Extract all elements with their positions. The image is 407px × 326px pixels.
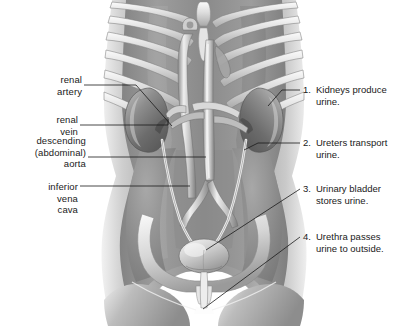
list-item-3-text: Urinary bladder stores urine. [316,183,381,206]
list-item-4-text: Urethra passes urine to outside. [316,231,384,254]
urinary-bladder [179,239,229,273]
list-item-1-number: 1. [303,84,311,96]
list-item-2-number: 2. [303,137,311,149]
list-item-2-text: Ureters transport urine. [316,137,387,160]
label-inferior-vena-cava: inferior vena cava [48,181,78,216]
label-renal-vein: renal vein [56,114,78,137]
label-descending-aorta: descending (abdominal) aorta [35,135,86,170]
label-renal-artery: renal artery [57,74,82,97]
list-item-1-text: Kidneys produce urine. [316,84,387,107]
list-item-3-number: 3. [303,183,311,195]
anatomy-figure: renal artery renal vein descending (abdo… [0,0,407,326]
urethra [200,272,208,308]
list-item-4-number: 4. [303,231,311,243]
